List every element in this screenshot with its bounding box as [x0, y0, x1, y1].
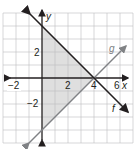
x-axis-label: x — [121, 80, 128, 91]
y-tick-2: 2 — [34, 47, 40, 58]
line-f-label: f — [112, 103, 116, 114]
x-tick-neg2: −2 — [8, 80, 20, 91]
y-tick-neg2: −2 — [27, 98, 39, 109]
x-tick-4: 4 — [91, 80, 97, 91]
line-g-label: g — [109, 43, 115, 54]
x-tick-2: 2 — [65, 80, 71, 91]
x-tick-6: 6 — [114, 80, 120, 91]
coordinate-plane: −2 2 4 6 x 2 −2 y g f — [0, 0, 136, 149]
y-axis-label: y — [45, 11, 52, 22]
